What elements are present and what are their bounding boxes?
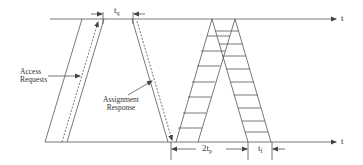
ladder-1-right-leg: [212, 19, 248, 142]
tq-sub: q: [117, 10, 120, 16]
access-request-line-left: [45, 19, 82, 142]
timing-diagram: [0, 0, 363, 165]
ladder-2-right-leg: [235, 19, 271, 142]
access-requests-line2: Requests: [20, 76, 47, 84]
ladder-2-left-leg: [198, 19, 235, 142]
tf-sub: f: [261, 148, 263, 154]
tf-label: tf: [258, 144, 263, 155]
assignment-response-line: [132, 19, 168, 142]
tq-label: tq: [114, 6, 120, 17]
bottom-axis-label: t: [341, 137, 344, 145]
ladder-1-left-leg: [176, 19, 212, 142]
two-tp-label: 2tp: [202, 144, 212, 155]
ladder-rungs: [178, 31, 268, 132]
top-axis-label: t: [341, 14, 344, 22]
access-requests-label: Access Requests: [20, 68, 47, 84]
two-tp-base: 2t: [202, 143, 209, 153]
assignment-response-label: Assignment Response: [96, 96, 146, 112]
access-request-line-dashed: [62, 22, 98, 142]
assignment-response-pointer: [128, 81, 152, 95]
assignment-response-line-dashed: [137, 21, 172, 140]
access-request-line-right: [67, 19, 104, 142]
two-tp-sub: p: [209, 148, 212, 154]
assignment-response-line2: Response: [96, 104, 146, 112]
